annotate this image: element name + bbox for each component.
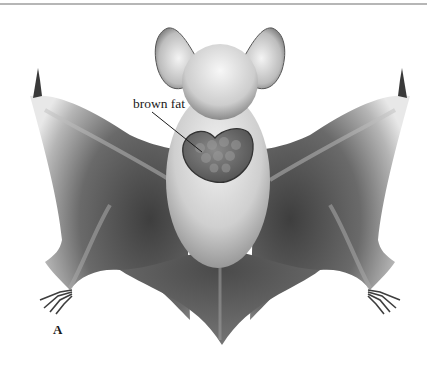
panel-label: A: [53, 322, 62, 338]
bat-illustration: [0, 0, 440, 370]
right-foot: [368, 290, 400, 314]
bat-illustration-figure: brown fat A: [0, 0, 440, 370]
brown-fat-label: brown fat: [133, 96, 185, 112]
left-thumb-claw: [33, 68, 42, 98]
head-fur: [182, 44, 258, 120]
left-foot: [40, 290, 72, 314]
right-thumb-claw: [398, 68, 407, 98]
